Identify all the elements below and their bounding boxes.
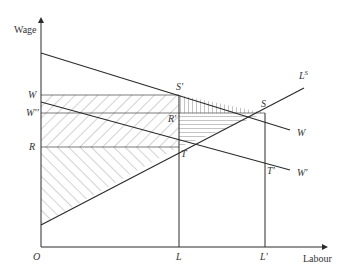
point-label-s-prime: S' [176, 81, 184, 92]
y-tick-w-double-prime: W'' [26, 107, 39, 118]
y-tick-w: W [28, 89, 38, 100]
point-label-t-prime: T' [267, 165, 276, 176]
y-axis-label: Wage [14, 24, 37, 35]
x-tick-l: L [175, 251, 182, 262]
curve-label-w: W [297, 127, 307, 138]
point-label-r-prime: R' [167, 113, 177, 124]
point-label-s: S [261, 98, 266, 109]
x-tick-l-prime: L' [259, 251, 269, 262]
origin-label: O [33, 251, 40, 262]
point-label-t: T [181, 148, 188, 159]
curve-label-w-prime: W' [297, 167, 308, 178]
wage-labour-diagram: Wage Labour O W W'' R L L' W W' LS S' S … [0, 0, 341, 270]
hatch-region-surplus-triangle [41, 147, 179, 225]
x-axis-label: Labour [303, 253, 333, 264]
shaded-regions [41, 95, 265, 225]
curve-label-labour-supply: LS [298, 69, 309, 81]
y-tick-r: R [28, 141, 35, 152]
hatch-region-vertical-triangle [179, 95, 265, 113]
